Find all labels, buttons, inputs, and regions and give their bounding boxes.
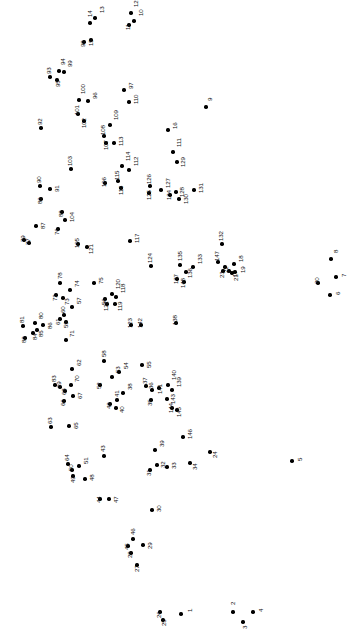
dot-label: 52 — [96, 383, 102, 389]
dot-marker — [120, 164, 123, 167]
dot-label: 86 — [47, 323, 53, 329]
dot-marker — [49, 425, 52, 428]
dot-marker — [153, 448, 156, 451]
dot-label: 83 — [51, 376, 57, 382]
dot-marker — [48, 75, 51, 78]
dot-marker — [148, 184, 151, 187]
dot-marker — [128, 239, 131, 242]
dot-marker — [33, 321, 36, 324]
dot-label: 3 — [242, 626, 248, 629]
dot-label: 88 — [58, 211, 64, 217]
dot-label: 146 — [187, 429, 193, 439]
dot-marker — [122, 88, 125, 91]
dot-label: 107 — [103, 140, 109, 150]
dot-label: 102 — [81, 118, 87, 128]
dot-label: 132 — [218, 231, 224, 241]
dot-marker — [115, 398, 118, 401]
dot-label: 117 — [134, 234, 140, 243]
dot-label: 47 — [113, 497, 119, 503]
dot-label: 120 — [115, 279, 121, 289]
dot-marker — [290, 459, 293, 462]
dot-label: 42 — [106, 403, 112, 409]
dot-label: 110 — [133, 95, 139, 104]
dot-label: 18 — [238, 256, 244, 262]
dot-label: 57 — [76, 298, 82, 304]
dot-label: 100 — [80, 84, 86, 94]
dot-label: 2 — [230, 602, 236, 605]
dot-marker — [66, 462, 69, 465]
dot-marker — [179, 612, 182, 615]
dot-marker — [141, 543, 144, 546]
dot-label: 62 — [76, 360, 82, 366]
dot-marker — [150, 508, 153, 511]
dot-label: 54 — [123, 363, 129, 369]
dot-label: 106 — [101, 177, 107, 187]
dot-marker — [204, 105, 207, 108]
dot-label: 5 — [297, 458, 303, 461]
dot-label: 122 — [103, 301, 109, 311]
dot-label: 25 — [161, 620, 167, 626]
dot-marker — [171, 150, 174, 153]
dot-label: 48 — [89, 475, 95, 481]
dot-label: 91 — [54, 186, 60, 192]
dot-label: 68 — [61, 389, 67, 395]
dot-label: 78 — [57, 273, 63, 279]
dot-label: 8 — [333, 250, 339, 253]
dot-label: 41 — [114, 391, 120, 397]
dot-label: 75 — [98, 278, 104, 284]
dot-label: 131 — [198, 183, 204, 193]
dot-label: 4 — [258, 609, 264, 612]
dot-label: 21 — [233, 275, 239, 281]
dot-label: 29 — [147, 543, 153, 549]
dot-marker — [329, 257, 332, 260]
dot-label: 44 — [96, 497, 102, 503]
dot-label: 46 — [130, 529, 136, 535]
dot-label: 138 — [172, 315, 178, 325]
dot-label: 142 — [137, 318, 143, 328]
dot-marker — [165, 465, 168, 468]
dot-label: 144 — [168, 403, 174, 413]
dot-label: 134 — [166, 190, 172, 200]
dot-label: 101 — [74, 105, 80, 115]
dot-marker — [70, 305, 73, 308]
dot-label: 20 — [314, 278, 320, 284]
dot-marker — [129, 11, 132, 14]
dot-label: 148 — [180, 278, 186, 288]
dot-marker — [21, 324, 24, 327]
dot-label: 76 — [54, 229, 60, 235]
dot-label: 45 — [124, 544, 130, 550]
dot-label: 89 — [37, 198, 43, 204]
dot-marker — [86, 99, 89, 102]
dot-marker — [77, 464, 80, 467]
dot-marker — [93, 16, 96, 19]
dot-marker — [67, 424, 70, 427]
dot-label: 125 — [146, 190, 152, 200]
dot-marker — [77, 98, 80, 101]
dot-marker — [69, 383, 72, 386]
dot-label: 116 — [118, 186, 124, 195]
dot-label: 1 — [187, 609, 193, 612]
dot-label: 87 — [40, 223, 46, 229]
dot-label: 19 — [240, 267, 246, 273]
dot-label: 97 — [128, 83, 134, 89]
dot-label: 61 — [55, 319, 61, 325]
dot-marker — [231, 610, 234, 613]
dot-marker — [112, 141, 115, 144]
dot-label: 105 — [74, 238, 80, 248]
dot-marker — [69, 167, 72, 170]
dot-marker — [107, 497, 110, 500]
connect-the-dots-canvas: 1234567891011121314151617181920212223242… — [0, 0, 349, 630]
dot-marker — [144, 384, 147, 387]
dot-marker — [117, 370, 120, 373]
dot-marker — [83, 477, 86, 480]
dot-marker — [181, 435, 184, 438]
dot-marker — [34, 224, 37, 227]
dot-marker — [166, 128, 169, 131]
dot-label: 119 — [117, 302, 123, 311]
dot-label: 38 — [127, 384, 133, 390]
dot-marker — [328, 293, 331, 296]
dot-label: 24 — [212, 452, 218, 458]
dot-label: 63 — [47, 418, 53, 424]
dot-marker — [251, 610, 254, 613]
dot-label: 6 — [335, 292, 341, 295]
